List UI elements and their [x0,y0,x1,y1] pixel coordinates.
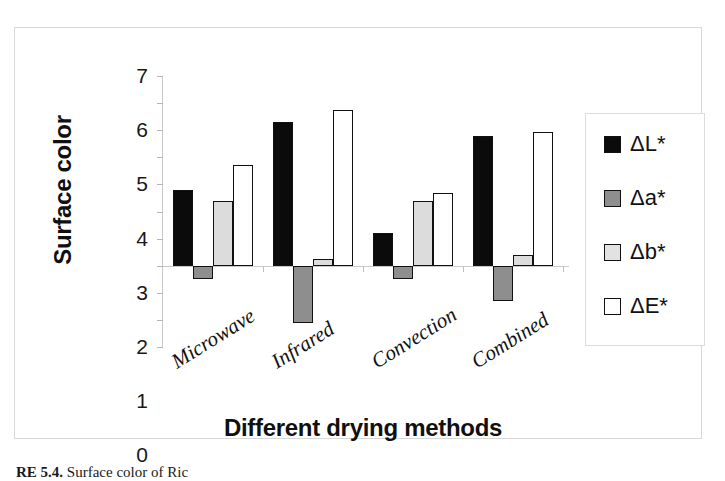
y-tick-mark: 7 [157,76,163,77]
y-tick-mark: 3 [157,184,163,185]
caption-text: Surface color of Ric [67,464,188,480]
bar-combined-a [493,266,513,301]
bar-microwave-E [233,165,253,265]
legend-item[interactable]: ΔL* [604,131,666,157]
legend-swatch-icon [604,298,621,315]
bar-combined-b [513,255,533,266]
chart-frame: Surface color 76543210-1-2-3 MicrowaveIn… [14,27,702,439]
y-tick-mark: -1 [157,293,163,294]
y-tick-label: 5 [136,172,148,196]
bar-convection-b [413,201,433,266]
bar-convection-E [433,193,453,266]
legend-label: ΔE* [630,293,668,319]
y-tick-label: 2 [136,335,148,359]
plot-area: 76543210-1-2-3 [163,76,563,347]
legend: ΔL*Δa*Δb*ΔE* [585,113,705,346]
y-tick-label: 1 [136,389,148,413]
bar-combined-E [533,132,553,266]
y-tick-label: 4 [136,227,148,251]
y-tick-label: 3 [136,281,148,305]
bar-infrared-b [313,259,333,266]
x-tick-mark [263,266,264,272]
caption-number: RE 5.4. [16,464,63,480]
y-tick-mark: 4 [157,157,163,158]
x-tick-mark [363,266,364,272]
bar-infrared-L [273,122,293,266]
legend-label: Δa* [630,185,666,211]
bar-convection-L [373,233,393,266]
bar-combined-L [473,136,493,266]
y-tick-mark: 5 [157,130,163,131]
legend-item[interactable]: Δa* [604,185,666,211]
legend-item[interactable]: Δb* [604,239,666,265]
x-tick-mark [463,266,464,272]
bar-microwave-L [173,190,193,266]
legend-swatch-icon [604,190,621,207]
figure-caption: RE 5.4. Surface color of Ric [16,464,188,481]
legend-swatch-icon [604,244,621,261]
y-tick-mark: 2 [157,212,163,213]
y-tick-mark: -3 [157,347,163,348]
y-tick-mark: 0 [157,266,163,267]
legend-label: Δb* [630,239,666,265]
y-axis-title: Surface color [49,80,77,300]
bar-microwave-a [193,266,213,280]
bar-infrared-E [333,110,353,266]
y-tick-label: 7 [136,64,148,88]
x-tick-mark [563,266,564,272]
y-tick-label: 6 [136,118,148,142]
y-tick-mark: 6 [157,103,163,104]
figure-container: Surface color 76543210-1-2-3 MicrowaveIn… [0,0,725,481]
y-tick-mark: 1 [157,239,163,240]
legend-swatch-icon [604,136,621,153]
x-axis-title: Different drying methods [163,414,563,442]
bar-convection-a [393,266,413,280]
legend-item[interactable]: ΔE* [604,293,668,319]
bar-microwave-b [213,201,233,266]
bar-infrared-a [293,266,313,323]
legend-label: ΔL* [630,131,666,157]
y-tick-mark: -2 [157,320,163,321]
